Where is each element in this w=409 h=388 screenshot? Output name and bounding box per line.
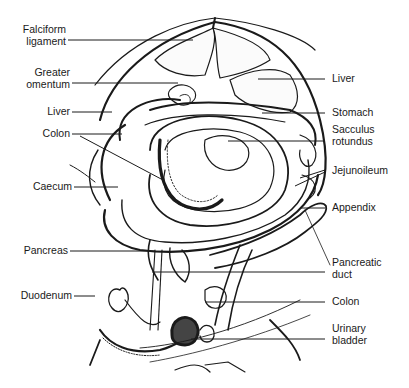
label-pancreas: Pancreas	[4, 245, 68, 257]
label-appendix: Appendix	[332, 202, 376, 214]
label-greater-omentum: Greater omentum	[6, 67, 70, 90]
leader-jejunoileum-b	[295, 172, 325, 186]
label-duodenum: Duodenum	[4, 290, 72, 302]
label-liver-right: Liver	[332, 73, 355, 85]
label-jejunoileum: Jejunoileum	[332, 165, 388, 177]
label-stomach: Stomach	[332, 107, 373, 119]
label-urinary-bladder: Urinary bladder	[332, 323, 367, 346]
label-sacculus-rotundus: Sacculus rotundus	[332, 124, 375, 147]
anatomy-diagram: Falciform ligament Greater omentum Liver…	[0, 0, 409, 388]
label-falciform-ligament: Falciform ligament	[6, 24, 66, 47]
label-liver-left: Liver	[6, 106, 70, 118]
label-colon-left: Colon	[6, 128, 70, 140]
label-pancreatic-duct: Pancreatic duct	[332, 257, 382, 280]
label-colon-right: Colon	[332, 296, 359, 308]
label-caecum: Caecum	[6, 181, 72, 193]
